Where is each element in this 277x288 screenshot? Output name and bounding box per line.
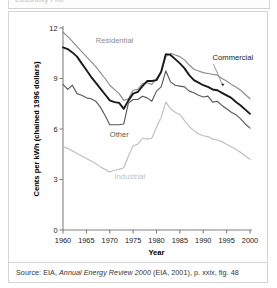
x-tick-label: 2000 — [242, 236, 258, 245]
series-label-industrial: Industrial — [114, 172, 145, 181]
caption-prefix: Source: EIA, — [16, 268, 59, 277]
x-tick-label: 1975 — [125, 236, 141, 245]
commercial-leader-line-arrowhead — [221, 84, 224, 86]
y-axis-title: Cents per kWh (chained 1996 dollars) — [32, 61, 41, 197]
y-tick-label: 6 — [53, 125, 57, 134]
source-caption-box: Source: EIA, Annual Energy Review 2000 (… — [8, 263, 268, 283]
x-tick-label: 1965 — [78, 236, 94, 245]
series-label-other: Other — [110, 130, 129, 139]
series-line-industrial — [63, 102, 250, 172]
x-tick-label: 1985 — [172, 236, 188, 245]
series-label-residential: Residential — [96, 36, 134, 45]
caption-suffix: (EIA, 2001), p. xxix, fig. 48 — [151, 268, 239, 277]
figure-container: Electricity Pric 03691219601965197019751… — [0, 0, 277, 288]
y-tick-label: 3 — [53, 175, 57, 184]
x-axis-title: Year — [148, 248, 164, 257]
source-caption-text: Source: EIA, Annual Energy Review 2000 (… — [9, 268, 239, 277]
series-group: ResidentialCommercialOtherIndustrial — [63, 32, 253, 180]
x-tick-label: 1970 — [102, 236, 118, 245]
x-tick-label: 1960 — [55, 236, 71, 245]
series-line-residential — [63, 32, 250, 100]
x-tick-label: 1995 — [218, 236, 234, 245]
series-label-commercial: Commercial — [213, 53, 254, 62]
y-tick-label: 0 — [53, 226, 57, 235]
line-chart: 0369121960196519701975198019851990199520… — [0, 0, 277, 288]
x-tick-label: 1980 — [148, 236, 164, 245]
y-tick-label: 9 — [53, 74, 57, 83]
x-tick-label: 1990 — [195, 236, 211, 245]
caption-italic-title: Annual Energy Review 2000 — [59, 268, 151, 277]
y-tick-label: 12 — [49, 24, 57, 33]
